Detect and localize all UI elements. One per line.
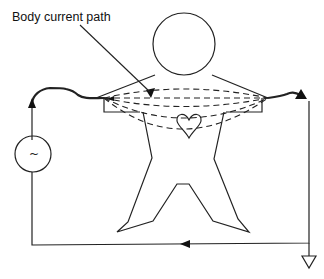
- body-current-diagram: Body current path ~: [0, 0, 324, 279]
- body-current-path-label: Body current path: [12, 10, 111, 24]
- label-leader-line: [80, 25, 150, 92]
- right-shoulder-line: [212, 75, 268, 98]
- arrow-up-left-icon: [28, 98, 36, 108]
- current-paths: [104, 89, 268, 129]
- left-wire: [32, 88, 104, 103]
- ground-icon: [302, 256, 316, 268]
- left-shoulder-line: [96, 75, 155, 98]
- ac-source-symbol: ~: [29, 147, 39, 161]
- head: [153, 13, 215, 75]
- bottom-wire: [32, 101, 309, 245]
- arrow-left-bottom-icon: [180, 240, 190, 248]
- heart-icon: [177, 114, 201, 138]
- right-wire: [268, 93, 301, 98]
